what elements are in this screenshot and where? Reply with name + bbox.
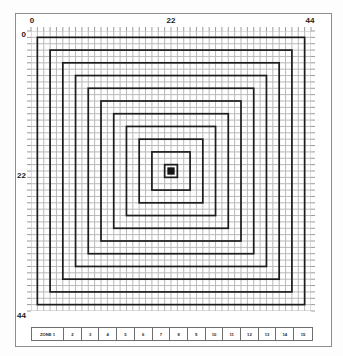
- zone-legend-label: 13: [265, 332, 270, 337]
- zone-legend-label: 14: [282, 332, 287, 337]
- zone-legend-cell-9[interactable]: 9: [188, 328, 206, 340]
- grid-canvas: [31, 31, 311, 311]
- zone-legend-label: 6: [142, 332, 144, 337]
- axis-left-label-0: 0: [12, 30, 26, 39]
- zone-legend-cell-8[interactable]: 8: [170, 328, 188, 340]
- zone-legend-cell-3[interactable]: 3: [82, 328, 100, 340]
- zone-legend-cell-6[interactable]: 6: [135, 328, 153, 340]
- zone-legend-cell-5[interactable]: 5: [117, 328, 135, 340]
- zone-legend-cell-7[interactable]: 7: [153, 328, 171, 340]
- zone-legend-cell-1[interactable]: ZONE 1: [32, 328, 64, 340]
- axis-top-label-22: 22: [167, 16, 176, 25]
- zone-legend-label: 15: [301, 332, 306, 337]
- zone-legend-label: 8: [177, 332, 179, 337]
- zone-legend-cell-10[interactable]: 10: [206, 328, 224, 340]
- zone-legend-label: 10: [212, 332, 217, 337]
- zone-legend-label: 2: [71, 332, 73, 337]
- grid-plot-area: [31, 31, 311, 311]
- zone-legend-label: 3: [89, 332, 91, 337]
- zone-legend-cell-12[interactable]: 12: [241, 328, 259, 340]
- zone-legend-label: 5: [124, 332, 126, 337]
- zone-legend-label: 4: [107, 332, 109, 337]
- axis-left-label-44: 44: [12, 311, 26, 320]
- axis-top-label-0: 0: [30, 16, 34, 25]
- zone-legend: ZONE 123456789101112131415: [31, 327, 313, 341]
- zone-legend-cell-2[interactable]: 2: [64, 328, 82, 340]
- zone-legend-label: 12: [247, 332, 252, 337]
- zone-legend-cell-15[interactable]: 15: [294, 328, 312, 340]
- zone-legend-cell-11[interactable]: 11: [223, 328, 241, 340]
- zone-legend-label: 11: [229, 332, 233, 337]
- zone-legend-cell-14[interactable]: 14: [276, 328, 294, 340]
- zone-legend-label: 7: [160, 332, 162, 337]
- zone-legend-label: 9: [195, 332, 197, 337]
- axis-top-label-44: 44: [306, 16, 315, 25]
- zone-legend-cell-13[interactable]: 13: [259, 328, 277, 340]
- axis-left-label-22: 22: [12, 171, 26, 180]
- grid-svg: [31, 31, 311, 311]
- zone-legend-label: ZONE 1: [40, 332, 55, 337]
- zone-legend-cell-4[interactable]: 4: [99, 328, 117, 340]
- diagram-root: 0 22 44 0 22 44 ZONE 1234567891011121314…: [0, 0, 343, 356]
